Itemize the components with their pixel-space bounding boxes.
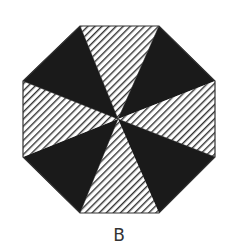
figure-caption: B <box>0 226 238 245</box>
octagon-figure <box>0 0 238 245</box>
